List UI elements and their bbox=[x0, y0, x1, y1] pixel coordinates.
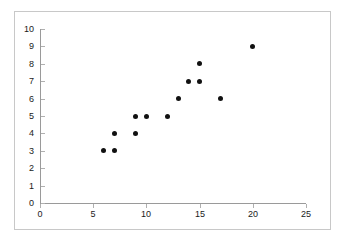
x-tick bbox=[40, 204, 41, 208]
x-tick-label: 0 bbox=[28, 210, 52, 219]
x-tick bbox=[93, 204, 94, 208]
data-point bbox=[186, 79, 191, 84]
x-tick bbox=[146, 204, 147, 208]
x-axis-line bbox=[40, 203, 306, 204]
x-tick-label: 10 bbox=[134, 210, 158, 219]
y-tick bbox=[41, 81, 45, 82]
y-tick-label: 0 bbox=[12, 199, 34, 208]
y-tick-label: 7 bbox=[12, 77, 34, 86]
y-tick bbox=[41, 203, 45, 204]
x-tick-label: 5 bbox=[81, 210, 105, 219]
data-point bbox=[101, 148, 106, 153]
data-point bbox=[197, 61, 202, 66]
data-point bbox=[133, 114, 138, 119]
data-point bbox=[197, 79, 202, 84]
y-tick bbox=[41, 151, 45, 152]
data-point bbox=[112, 148, 117, 153]
data-point bbox=[165, 114, 170, 119]
y-tick bbox=[41, 116, 45, 117]
y-tick-label: 3 bbox=[12, 147, 34, 156]
x-tick-label: 20 bbox=[241, 210, 265, 219]
y-tick-label: 10 bbox=[12, 25, 34, 34]
data-point bbox=[218, 96, 223, 101]
y-tick bbox=[41, 64, 45, 65]
data-point bbox=[112, 131, 117, 136]
data-point bbox=[133, 131, 138, 136]
x-tick bbox=[253, 204, 254, 208]
x-tick bbox=[200, 204, 201, 208]
scatter-plot: 012345678910 0510152025 bbox=[0, 0, 344, 240]
y-tick-label: 5 bbox=[12, 112, 34, 121]
data-point bbox=[176, 96, 181, 101]
y-tick-label: 9 bbox=[12, 42, 34, 51]
y-tick-label: 4 bbox=[12, 129, 34, 138]
y-tick bbox=[41, 186, 45, 187]
data-point bbox=[250, 44, 255, 49]
y-tick-label: 1 bbox=[12, 182, 34, 191]
data-point bbox=[144, 114, 149, 119]
y-tick bbox=[41, 29, 45, 30]
y-tick bbox=[41, 99, 45, 100]
x-tick-label: 15 bbox=[188, 210, 212, 219]
x-tick-label: 25 bbox=[294, 210, 318, 219]
y-tick-label: 6 bbox=[12, 95, 34, 104]
y-tick-label: 2 bbox=[12, 164, 34, 173]
y-tick bbox=[41, 168, 45, 169]
x-tick bbox=[306, 204, 307, 208]
y-tick-label: 8 bbox=[12, 60, 34, 69]
y-tick bbox=[41, 46, 45, 47]
y-tick bbox=[41, 133, 45, 134]
